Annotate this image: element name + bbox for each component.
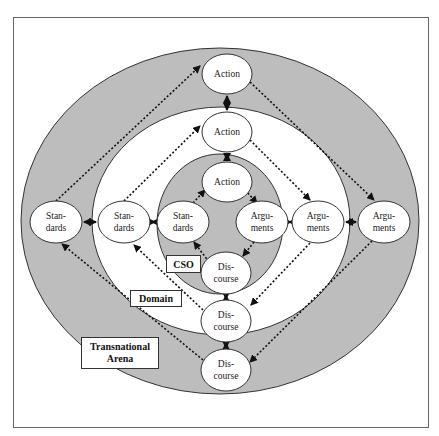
node-label: Argu- [251, 211, 274, 221]
node-label: ments [307, 223, 330, 233]
nested-cycle-diagram: Action Action Action Stan- dards Stan- d… [0, 0, 439, 436]
node-action-outer: Action [202, 54, 252, 94]
node-label: Dis- [218, 262, 234, 272]
node-label: ments [251, 223, 274, 233]
node-label: dards [114, 223, 135, 233]
node-label: Action [214, 177, 240, 187]
node-label: dards [173, 223, 194, 233]
node-label: Stan- [46, 211, 66, 221]
node-label: Stan- [173, 211, 193, 221]
transnational-arena-label: Transnational [90, 341, 150, 352]
cso-label: CSO [173, 259, 194, 270]
node-label: Dis- [218, 310, 234, 320]
node-label: Argu- [307, 211, 330, 221]
node-label: Action [214, 69, 240, 79]
node-standards-middle: Stan- dards [98, 201, 150, 243]
domain-label-box: Domain [131, 291, 182, 307]
node-action-middle: Action [202, 112, 252, 152]
node-label: dards [46, 223, 67, 233]
node-label: Dis- [218, 359, 234, 369]
transnational-arena-label-box: Transnational Arena [82, 338, 159, 369]
node-action-inner: Action [202, 162, 252, 202]
node-label: Stan- [114, 211, 134, 221]
domain-label: Domain [139, 293, 173, 304]
node-label: Action [214, 127, 240, 137]
transnational-arena-label: Arena [107, 353, 133, 364]
cso-label-box: CSO [167, 256, 201, 273]
node-discourse-middle: Dis- course [201, 300, 251, 342]
node-arguments-outer: Argu- ments [358, 201, 410, 243]
node-label: Argu- [373, 211, 396, 221]
node-arguments-inner: Argu- ments [236, 201, 288, 243]
node-discourse-inner: Dis- course [201, 252, 251, 294]
node-label: course [214, 371, 239, 381]
node-standards-outer: Stan- dards [30, 201, 82, 243]
node-arguments-middle: Argu- ments [292, 201, 344, 243]
node-discourse-outer: Dis- course [201, 349, 251, 391]
node-label: course [214, 322, 239, 332]
node-label: ments [373, 223, 396, 233]
node-standards-inner: Stan- dards [157, 201, 209, 243]
node-label: course [214, 274, 239, 284]
